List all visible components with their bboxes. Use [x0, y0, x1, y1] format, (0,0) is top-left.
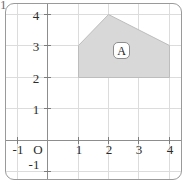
x-tick-label-3: 3	[131, 143, 147, 156]
y-tick-label-1: 1	[28, 103, 44, 116]
region-label-badge-a: A	[113, 42, 130, 59]
y-tick-label-3: 3	[28, 40, 44, 53]
y-tick-label-2: 2	[28, 72, 44, 85]
x-tick-label-1: 1	[71, 143, 87, 156]
y-tick-label-neg1: -1	[26, 158, 42, 171]
origin-label: O	[30, 143, 46, 156]
x-tick-label-neg1: -1	[10, 143, 26, 156]
x-tick-label-4: 4	[162, 143, 178, 156]
x-tick-label-2: 2	[101, 143, 117, 156]
coordinate-plot	[0, 0, 186, 184]
y-tick-label-4: 4	[28, 9, 44, 22]
region-label-text: A	[117, 45, 126, 57]
figure-container: 1	[0, 0, 186, 184]
